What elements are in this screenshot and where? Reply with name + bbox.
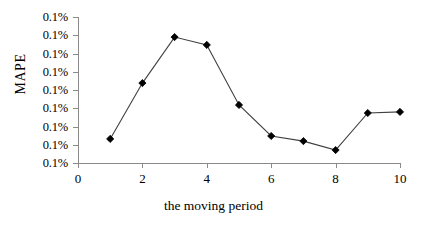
x-axis-tick (336, 163, 337, 168)
data-point-marker (203, 41, 210, 48)
x-axis-line (78, 163, 401, 164)
series-line (110, 37, 400, 150)
y-axis-tick (73, 17, 78, 18)
y-axis-tick-label: 0.1% (0, 84, 68, 96)
data-point-marker (396, 108, 403, 115)
x-axis-tick-label: 8 (321, 172, 351, 186)
data-point-marker (364, 109, 371, 116)
y-axis-tick (73, 72, 78, 73)
y-axis-tick-label: 0.1% (0, 102, 68, 114)
x-axis-tick (142, 163, 143, 168)
x-axis-tick-label: 0 (63, 172, 93, 186)
y-axis-tick (73, 127, 78, 128)
x-axis-tick (207, 163, 208, 168)
data-point-marker (332, 146, 339, 153)
chart-container: MAPE 0.1%0.1%0.1%0.1%0.1%0.1%0.1%0.1%0.1… (0, 0, 427, 229)
x-axis-tick (271, 163, 272, 168)
x-axis-tick-label: 10 (385, 172, 415, 186)
data-point-marker (107, 135, 114, 142)
y-axis-tick-label: 0.1% (0, 157, 68, 169)
y-axis-tick-label: 0.1% (0, 139, 68, 151)
y-axis-tick (73, 108, 78, 109)
y-axis-tick (73, 90, 78, 91)
x-axis-tick-label: 6 (256, 172, 286, 186)
x-axis-title: the moving period (0, 198, 427, 214)
y-axis-tick-label: 0.1% (0, 66, 68, 78)
x-axis-tick-label: 2 (127, 172, 157, 186)
x-axis-tick-label: 4 (192, 172, 222, 186)
x-axis-tick (400, 163, 401, 168)
data-point-marker (300, 138, 307, 145)
data-point-marker (268, 132, 275, 139)
y-axis-tick-label: 0.1% (0, 121, 68, 133)
data-point-marker (235, 101, 242, 108)
x-axis-tick (78, 163, 79, 168)
y-axis-tick (73, 35, 78, 36)
y-axis-line (78, 17, 79, 164)
data-point-marker (171, 33, 178, 40)
y-axis-tick (73, 54, 78, 55)
y-axis-tick-label: 0.1% (0, 11, 68, 23)
y-axis-tick-label: 0.1% (0, 48, 68, 60)
data-point-marker (139, 79, 146, 86)
y-axis-tick (73, 145, 78, 146)
y-axis-tick-label: 0.1% (0, 29, 68, 41)
